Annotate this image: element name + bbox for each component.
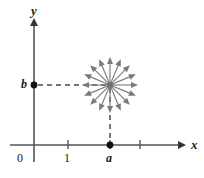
point-a-label: a — [106, 152, 112, 164]
point-b-marker — [31, 82, 38, 89]
vector-field-figure: y x 0 1 a b — [0, 0, 204, 178]
x-axis-arrowhead — [178, 141, 186, 149]
origin-label: 0 — [17, 152, 23, 164]
field-arrow-head — [82, 82, 89, 88]
x-axis — [10, 141, 186, 149]
x-tick-label-1: 1 — [64, 152, 70, 164]
point-a-marker — [107, 142, 114, 149]
point-b-label: b — [21, 78, 27, 90]
y-axis — [30, 18, 38, 162]
y-axis-label: y — [31, 4, 37, 17]
x-axis-label: x — [191, 138, 198, 151]
diagram-canvas — [0, 0, 204, 178]
y-axis-arrowhead — [30, 18, 38, 26]
field-arrow-head — [131, 82, 138, 88]
dashed-guides — [38, 85, 110, 142]
field-arrow-head — [107, 57, 113, 64]
field-arrow-head — [107, 106, 113, 113]
field-center-point — [107, 82, 113, 88]
